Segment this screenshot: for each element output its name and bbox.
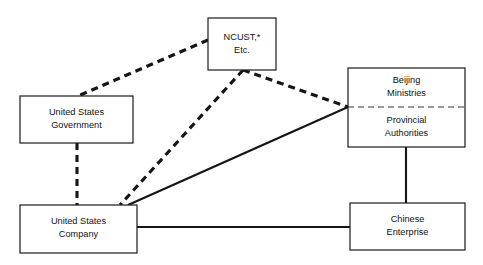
united-states-company-node[interactable]: United States Company (20, 205, 137, 253)
united-states-government-label-line2: Government (51, 120, 102, 130)
diagram-root: NCUST,* Etc. United States Government Be… (0, 0, 483, 265)
united-states-government-label-line1: United States (49, 107, 105, 117)
united-states-government-node[interactable]: United States Government (20, 96, 133, 143)
beijing-ministries-provincial-authorities-node[interactable]: Beijing Ministries Provincial Authoritie… (348, 68, 465, 147)
ncust-box[interactable] (208, 18, 276, 70)
united-states-company-label-line2: Company (59, 229, 99, 239)
chinese-enterprise-node[interactable]: Chinese Enterprise (350, 203, 465, 250)
ncust-label-line2: Etc. (234, 45, 250, 55)
united-states-company-label-line1: United States (51, 216, 107, 226)
edge-ncust-to-us-government (78, 40, 208, 96)
edge-ncust-to-us-company (120, 70, 243, 205)
edge-us-company-to-beijing-provincial (128, 107, 348, 205)
beijing-ministries-label-line1: Beijing (393, 75, 421, 85)
provincial-authorities-label-line2: Authorities (385, 128, 429, 138)
chinese-enterprise-label-line1: Chinese (391, 214, 425, 224)
provincial-authorities-label-line1: Provincial (387, 115, 427, 125)
relationship-diagram: NCUST,* Etc. United States Government Be… (0, 0, 483, 265)
ncust-label-line1: NCUST,* (224, 32, 261, 42)
chinese-enterprise-label-line2: Enterprise (387, 227, 429, 237)
edge-ncust-to-beijing-provincial (243, 70, 348, 107)
beijing-ministries-label-line2: Ministries (387, 88, 426, 98)
ncust-node[interactable]: NCUST,* Etc. (208, 18, 276, 70)
